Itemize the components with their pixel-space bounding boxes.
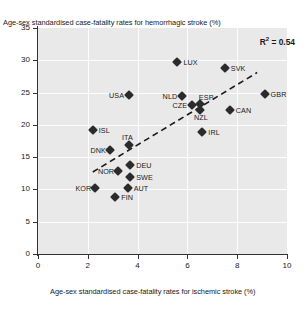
x-axis-title: Age-sex standardised case-fatality rates… (50, 287, 255, 296)
y-axis-tick (33, 157, 37, 158)
data-point-label: NLD (163, 92, 178, 101)
x-axis-tick-label: 2 (76, 261, 100, 270)
y-axis-tick (33, 254, 37, 255)
gridline-vertical (138, 28, 139, 254)
data-point-label: DNK (90, 146, 105, 155)
data-point-label: AUT (134, 184, 149, 193)
data-point-label: FIN (121, 193, 133, 202)
scatter-chart: Age-sex standardised case-fatality rates… (0, 0, 307, 312)
y-axis-tick (33, 125, 37, 126)
x-axis-tick (237, 255, 238, 259)
x-axis-tick-label: 8 (225, 261, 249, 270)
data-point-label: SWE (136, 173, 153, 182)
r-squared-value: = 0.54 (269, 37, 295, 47)
plot-area (38, 28, 287, 254)
y-axis-tick-label: 15 (0, 152, 30, 161)
data-point-label: NOR (98, 167, 114, 176)
y-axis-line (37, 26, 38, 256)
gridline-horizontal (38, 60, 287, 61)
y-axis-title: Age-sex standardised case-fatality rates… (3, 18, 221, 27)
data-point-label: DEU (136, 161, 151, 170)
x-axis-tick-label: 6 (175, 261, 199, 270)
data-point-label: NZL (194, 113, 208, 122)
data-point-label: LUX (183, 58, 197, 67)
y-axis-tick (33, 28, 37, 29)
data-point-label: ESP (199, 93, 214, 102)
x-axis-tick (88, 255, 89, 259)
x-axis-tick (138, 255, 139, 259)
x-axis-tick (187, 255, 188, 259)
y-axis-tick-label: 25 (0, 88, 30, 97)
y-axis-tick-label: 5 (0, 217, 30, 226)
gridline-vertical (237, 28, 238, 254)
x-axis-tick-label: 10 (275, 261, 299, 270)
data-point-label: ISL (99, 126, 110, 135)
x-axis-line (37, 254, 288, 255)
data-point-label: SVK (231, 64, 246, 73)
y-axis-tick (33, 189, 37, 190)
x-axis-tick (287, 255, 288, 259)
gridline-horizontal (38, 222, 287, 223)
x-axis-tick (38, 255, 39, 259)
gridline-horizontal (38, 157, 287, 158)
r-squared-annotation: R2 = 0.54 (260, 36, 295, 47)
y-axis-tick-label: 35 (0, 23, 30, 32)
x-axis-tick-label: 0 (26, 261, 50, 270)
y-axis-tick (33, 222, 37, 223)
data-point-label: ITA (122, 133, 133, 142)
gridline-horizontal (38, 125, 287, 126)
y-axis-tick-label: 30 (0, 55, 30, 64)
y-axis-tick-label: 10 (0, 184, 30, 193)
y-axis-tick (33, 93, 37, 94)
data-point-label: USA (109, 91, 124, 100)
data-point-label: CAN (236, 106, 251, 115)
data-point-label: IRL (208, 128, 220, 137)
data-point-label: GBR (271, 90, 287, 99)
gridline-vertical (88, 28, 89, 254)
y-axis-tick-label: 0 (0, 249, 30, 258)
data-point-label: CZE (173, 101, 188, 110)
y-axis-tick-label: 20 (0, 120, 30, 129)
y-axis-tick (33, 60, 37, 61)
data-point-label: KOR (75, 184, 91, 193)
x-axis-tick-label: 4 (126, 261, 150, 270)
